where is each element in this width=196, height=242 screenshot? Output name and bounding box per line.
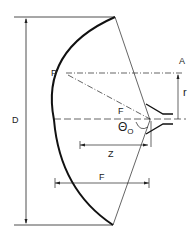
theta-arc [136, 122, 148, 129]
label-z: Z [108, 150, 114, 159]
f-arrow-right [144, 182, 149, 185]
theta-symbol: Θ [118, 120, 127, 134]
theta-subscript: O [127, 127, 133, 136]
p-to-focus-line [68, 75, 150, 119]
z-arrow-left [80, 144, 85, 147]
reflector-diagram [0, 0, 196, 242]
z-arrow-right [143, 144, 148, 147]
d-arrow-bottom [25, 219, 28, 224]
label-d: D [12, 116, 19, 125]
f-arrow-left [55, 182, 60, 185]
label-f-length: F [99, 173, 105, 182]
label-p: P [51, 69, 57, 78]
edge-ray-top [115, 17, 150, 120]
label-theta: ΘO [118, 121, 134, 136]
feed-horn-lower [146, 124, 173, 134]
label-a: A [179, 57, 185, 66]
r-arrow [177, 74, 180, 79]
label-focus-f: F [118, 107, 124, 116]
feed-horn-upper [146, 104, 173, 114]
label-r: r [183, 87, 187, 98]
parabolic-dish [52, 17, 115, 225]
d-arrow-top [25, 18, 28, 23]
